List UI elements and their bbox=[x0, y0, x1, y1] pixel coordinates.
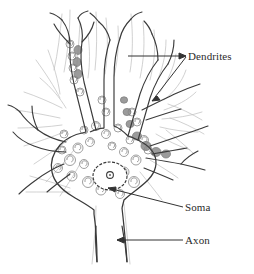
label-dendrites: Dendrites bbox=[188, 50, 232, 62]
label-soma: Soma bbox=[185, 201, 210, 213]
leader-line-dendrites-lower bbox=[152, 57, 186, 101]
leader-line-axon bbox=[117, 237, 183, 243]
nucleolus-core bbox=[109, 174, 111, 176]
neuron-illustration bbox=[0, 0, 254, 274]
leader-line-dendrites-upper bbox=[128, 53, 186, 59]
neuron-diagram-figure: Dendrites Soma Axon bbox=[0, 0, 254, 274]
label-axon: Axon bbox=[185, 234, 210, 246]
nucleus bbox=[93, 162, 127, 190]
axon-outline bbox=[96, 226, 127, 262]
